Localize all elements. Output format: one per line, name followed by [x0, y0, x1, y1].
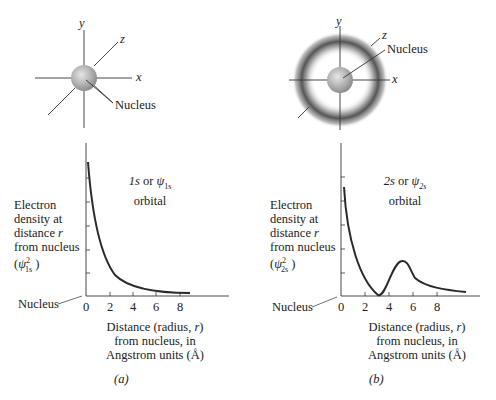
panel-b-xtick: 0 [338, 300, 344, 314]
panel-b-nucleus-label: Nucleus [387, 42, 428, 56]
panel-a-nucleus-sphere [71, 65, 97, 91]
panel-a-z-axis-label: z [120, 32, 125, 46]
panel-b-x-axis-label: x [392, 72, 398, 86]
panel-a-x-axis-label: x [136, 70, 142, 84]
panel-a-xtick: 6 [153, 300, 159, 314]
panel-b-xtick: 6 [410, 300, 416, 314]
panel-a-nucleus-label: Nucleus [115, 98, 156, 112]
panel-a-xtick: 8 [177, 300, 183, 314]
panel-b-xtick: 4 [386, 300, 392, 314]
panel-a-chart [58, 143, 229, 304]
panel-b-xtick: 2 [362, 300, 368, 314]
panel-a-xtick: 0 [83, 300, 89, 314]
panel-a-xtick: 2 [107, 300, 113, 314]
panel-b-x-label: Distance (radius, r) from nucleus, in An… [362, 320, 472, 362]
panel-a-orbital-label: 1s or ψ1s orbital [115, 174, 185, 208]
panel-b-y-label: Electron density at distance r from nucl… [270, 198, 336, 277]
panel-b-z-axis-label: z [382, 28, 387, 42]
panel-b-nucleus-axis-label: Nucleus [272, 300, 313, 314]
panel-b-y-axis-label: y [336, 14, 342, 28]
panel-b-orbital-label: 2s or ψ2s orbital [370, 174, 440, 208]
panel-b-chart [312, 143, 480, 307]
panel-b-caption: (b) [369, 372, 384, 386]
panel-b-xtick: 8 [434, 300, 440, 314]
panel-a-xtick: 4 [130, 300, 136, 314]
panel-a-x-label: Distance (radius, r) from nucleus, in An… [100, 320, 210, 362]
panel-a-nucleus-axis-label: Nucleus [18, 297, 59, 311]
panel-a-caption: (a) [114, 372, 129, 386]
panel-b-nucleus-sphere [327, 67, 353, 93]
panel-a-y-label: Electron density at distance r from nucl… [14, 198, 80, 277]
panel-a-y-axis-label: y [79, 16, 85, 30]
